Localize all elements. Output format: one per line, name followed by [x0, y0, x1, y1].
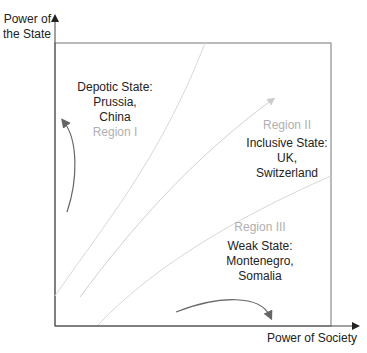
region-1-title: Depotic State:	[70, 80, 160, 95]
region-3-annotation: Region III Weak State: Montenegro, Somal…	[215, 220, 305, 284]
region-2-example: Switzerland	[242, 166, 332, 181]
region-1-example: Prussia,	[70, 95, 160, 110]
region-3-example: Montenegro,	[215, 254, 305, 269]
y-axis-label-line2: the State	[1, 27, 51, 42]
y-axis-label: Power of the State	[1, 12, 51, 42]
region-2-example: UK,	[242, 151, 332, 166]
region-1-example: China	[70, 110, 160, 125]
region-1-label: Region I	[70, 125, 160, 140]
region-3-title: Weak State:	[215, 239, 305, 254]
x-axis-label: Power of Society	[267, 331, 357, 346]
region-3-label: Region III	[215, 220, 305, 235]
arrow-to-weak	[176, 300, 270, 316]
region-1-annotation: Depotic State: Prussia, China Region I	[70, 80, 160, 140]
region-3-example: Somalia	[215, 269, 305, 284]
region-2-label: Region II	[242, 118, 332, 133]
region-2-title: Inclusive State:	[242, 136, 332, 151]
y-axis-label-line1: Power of	[1, 12, 51, 27]
region-2-annotation: Region II Inclusive State: UK, Switzerla…	[242, 118, 332, 181]
